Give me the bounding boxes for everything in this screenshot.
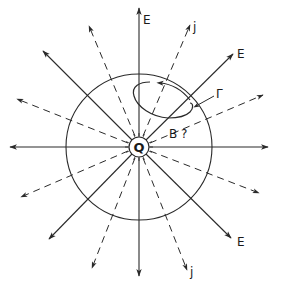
loop-path [133,82,192,118]
charge-field-diagram: Q E j E Γ B ? E j [0,0,281,288]
label-e-upper-right: E [237,47,245,61]
j-line-left-up [17,99,128,143]
label-b-question: B ? [169,127,187,141]
amperian-loop [133,82,192,118]
e-line-upper-left [43,51,132,140]
gamma-leader [196,96,214,106]
label-j-top: j [192,20,196,34]
j-line-down-left [92,158,135,268]
label-gamma: Γ [216,87,223,101]
label-e-lower-right: E [237,235,245,249]
j-line-right-down [150,151,259,193]
j-line-down-right [143,158,187,270]
label-e-top: E [143,13,151,27]
e-line-lower-right [146,154,231,238]
charge-label: Q [133,140,144,155]
label-j-bottom: j [189,265,193,279]
